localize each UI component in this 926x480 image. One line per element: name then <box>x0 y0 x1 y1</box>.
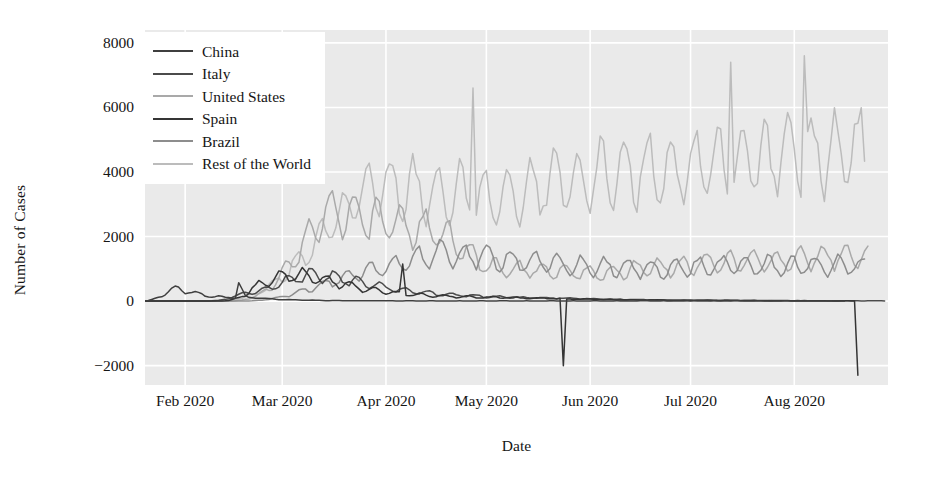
y-axis-tick-labels: 80006000400020000−2000 <box>74 0 134 480</box>
y-axis-title: Number of Cases <box>0 0 40 480</box>
legend-line-swatch <box>153 118 193 120</box>
legend-item[interactable]: United States <box>153 85 311 108</box>
y-tick-label: 4000 <box>78 163 134 181</box>
legend-label: Rest of the World <box>202 156 311 172</box>
series-line-united-states <box>145 191 868 301</box>
legend-label: China <box>202 44 239 60</box>
y-tick-label: −2000 <box>78 357 134 375</box>
legend-line-swatch <box>153 140 193 142</box>
chart-figure: Number of Cases 80006000400020000−2000 F… <box>0 0 926 480</box>
legend-label: Spain <box>202 111 237 127</box>
legend-label: Italy <box>202 66 230 82</box>
x-axis-title: Date <box>145 437 888 455</box>
y-tick-label: 2000 <box>78 228 134 246</box>
series-line-brazil <box>145 239 865 301</box>
x-tick-label: Apr 2020 <box>356 392 415 410</box>
series-line-spain <box>145 264 858 375</box>
y-tick-label: 0 <box>78 292 134 310</box>
legend-item[interactable]: Rest of the World <box>153 153 311 176</box>
legend-line-swatch <box>153 163 193 165</box>
legend-line-swatch <box>153 95 193 97</box>
x-tick-label: Jun 2020 <box>562 392 618 410</box>
legend-item[interactable]: China <box>153 40 311 63</box>
chart-legend: ChinaItalyUnited StatesSpainBrazilRest o… <box>143 32 325 184</box>
x-tick-label: Aug 2020 <box>763 392 825 410</box>
legend-item[interactable]: Brazil <box>153 130 311 153</box>
legend-label: United States <box>202 89 285 105</box>
x-tick-label: Feb 2020 <box>156 392 214 410</box>
legend-item[interactable]: Spain <box>153 108 311 131</box>
legend-line-swatch <box>153 50 193 52</box>
legend-item[interactable]: Italy <box>153 63 311 86</box>
x-tick-label: Jul 2020 <box>664 392 717 410</box>
x-tick-label: Mar 2020 <box>252 392 313 410</box>
y-tick-label: 8000 <box>78 34 134 52</box>
x-tick-label: May 2020 <box>455 392 518 410</box>
y-tick-label: 6000 <box>78 98 134 116</box>
legend-line-swatch <box>153 73 193 75</box>
legend-label: Brazil <box>202 134 240 150</box>
